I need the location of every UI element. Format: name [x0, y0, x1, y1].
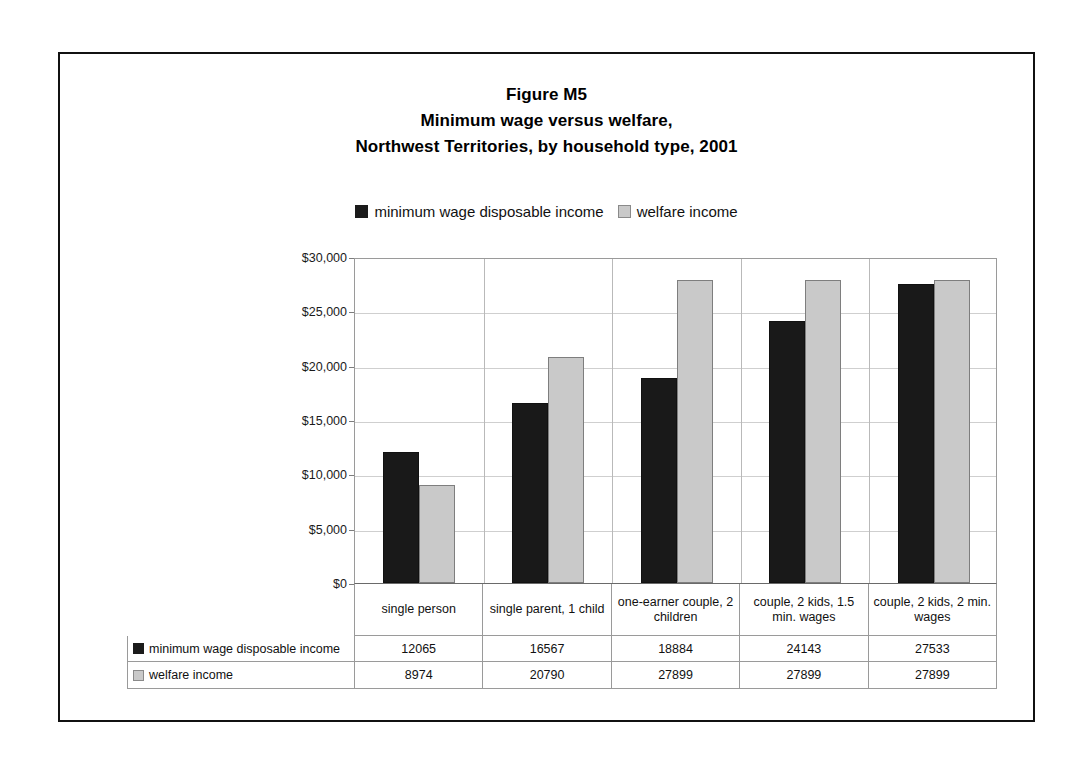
table-row: minimum wage disposable income1206516567… [128, 636, 996, 662]
y-axis-tick-label: $10,000 [302, 468, 347, 482]
light-square-icon [618, 205, 631, 218]
figure-frame: Figure M5 Minimum wage versus welfare, N… [58, 52, 1035, 722]
bar-minimum-wage [898, 284, 934, 583]
legend-entry-welfare: welfare income [618, 204, 738, 219]
category-label-4: couple, 2 kids, 2 min. wages [869, 584, 996, 635]
table-row-label: minimum wage disposable income [128, 636, 355, 661]
category-separator [869, 259, 870, 583]
bar-minimum-wage [641, 378, 677, 583]
y-axis-tick-mark [349, 367, 354, 368]
legend-label-minimum-wage: minimum wage disposable income [374, 204, 603, 219]
chart-legend: minimum wage disposable income welfare i… [60, 204, 1033, 219]
dark-square-icon [355, 205, 368, 218]
category-label-3: couple, 2 kids, 1.5 min. wages [740, 584, 868, 635]
bar-minimum-wage [769, 321, 805, 583]
table-cell: 27899 [612, 662, 740, 688]
y-axis-tick-label: $25,000 [302, 305, 347, 319]
title-line-1: Figure M5 [60, 82, 1033, 108]
bar-minimum-wage [512, 403, 548, 583]
table-cell: 18884 [612, 636, 740, 661]
y-axis-tick-mark [349, 312, 354, 313]
y-axis-tick-mark [349, 530, 354, 531]
y-axis-tick-label: $0 [333, 577, 347, 591]
bar-welfare [419, 485, 455, 583]
table-cell: 27899 [740, 662, 868, 688]
category-axis-row: single personsingle parent, 1 childone-e… [354, 584, 997, 636]
table-cell: 8974 [355, 662, 483, 688]
bar-minimum-wage [383, 452, 419, 583]
table-cell: 16567 [483, 636, 611, 661]
category-separator [484, 259, 485, 583]
category-separator [741, 259, 742, 583]
category-label-0: single person [355, 584, 483, 635]
y-axis-tick-label: $15,000 [302, 414, 347, 428]
category-separator [612, 259, 613, 583]
y-axis-tick-label: $5,000 [309, 523, 347, 537]
bar-welfare [805, 280, 841, 583]
plot-area [354, 258, 997, 584]
table-row-label-text: welfare income [149, 668, 233, 682]
chart-data-table: minimum wage disposable income1206516567… [127, 636, 997, 689]
bar-welfare [548, 357, 584, 583]
light-square-icon [133, 670, 144, 681]
legend-entry-minimum-wage: minimum wage disposable income [355, 204, 603, 219]
y-axis-tick-label: $30,000 [302, 251, 347, 265]
category-label-2: one-earner couple, 2 children [612, 584, 740, 635]
table-cell: 27533 [869, 636, 996, 661]
category-label-1: single parent, 1 child [483, 584, 611, 635]
figure-title: Figure M5 Minimum wage versus welfare, N… [60, 82, 1033, 160]
table-cell: 12065 [355, 636, 483, 661]
plot-wrapper: $0$5,000$10,000$15,000$20,000$25,000$30,… [354, 258, 997, 584]
table-row-label-text: minimum wage disposable income [149, 642, 340, 656]
y-axis-tick-label: $20,000 [302, 360, 347, 374]
y-axis-tick-mark [349, 421, 354, 422]
bar-welfare [934, 280, 970, 583]
y-axis-tick-mark [349, 258, 354, 259]
y-axis-tick-mark [349, 475, 354, 476]
table-row: welfare income897420790278992789927899 [128, 662, 996, 688]
legend-label-welfare: welfare income [637, 204, 738, 219]
table-cell: 24143 [740, 636, 868, 661]
dark-square-icon [133, 643, 144, 654]
table-cell: 20790 [483, 662, 611, 688]
title-line-2: Minimum wage versus welfare, [60, 108, 1033, 134]
table-row-label: welfare income [128, 662, 355, 688]
bar-welfare [677, 280, 713, 583]
title-line-3: Northwest Territories, by household type… [60, 134, 1033, 160]
table-cell: 27899 [869, 662, 996, 688]
